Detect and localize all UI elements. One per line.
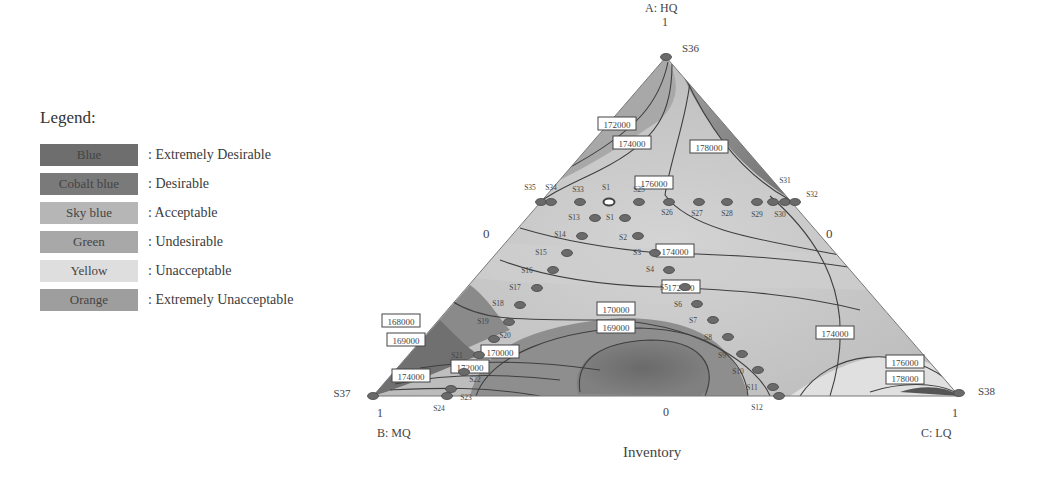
svg-text:S5: S5 (660, 283, 668, 292)
svg-text:174000: 174000 (398, 372, 426, 382)
svg-text:170000: 170000 (603, 305, 631, 315)
svg-text:S26: S26 (661, 208, 673, 217)
svg-text:S16: S16 (521, 266, 533, 275)
svg-text:169000: 169000 (603, 323, 631, 333)
svg-text:S18: S18 (492, 299, 504, 308)
bottom-axis-zero: 0 (663, 405, 669, 419)
svg-text:S2: S2 (619, 233, 627, 242)
contour-label: 176000 (886, 355, 924, 368)
axis-a-label: A: HQ (645, 1, 678, 15)
svg-text:S17: S17 (509, 283, 521, 292)
svg-text:S33: S33 (572, 185, 584, 194)
design-point: S27 (691, 199, 704, 219)
svg-text:S12: S12 (751, 403, 763, 412)
svg-text:S36: S36 (682, 42, 700, 54)
svg-text:S20: S20 (499, 331, 511, 340)
svg-text:169000: 169000 (393, 336, 421, 346)
svg-text:S21: S21 (451, 351, 463, 360)
svg-text:S34: S34 (545, 183, 557, 192)
svg-text:S35: S35 (524, 183, 536, 192)
svg-text:174000: 174000 (822, 329, 850, 339)
svg-text:S27: S27 (691, 209, 703, 218)
svg-text:S25: S25 (633, 185, 645, 194)
svg-text:S22: S22 (469, 375, 481, 384)
svg-text:S31: S31 (779, 176, 791, 185)
design-point: S37 (333, 387, 378, 400)
contour-label: 174000 (656, 244, 694, 257)
svg-text:168000: 168000 (388, 317, 416, 327)
svg-text:S9: S9 (718, 351, 726, 360)
svg-text:S38: S38 (978, 385, 996, 397)
svg-text:S30: S30 (774, 210, 786, 219)
contour-label: 172000 (598, 117, 636, 130)
svg-text:170000: 170000 (487, 348, 515, 358)
svg-text:172000: 172000 (604, 120, 632, 130)
design-point: S38 (954, 385, 996, 397)
axis-c-tick: 1 (952, 406, 958, 420)
svg-text:178000: 178000 (696, 143, 724, 153)
design-point: S36 (661, 42, 700, 61)
contour-label: 174000 (816, 326, 854, 339)
svg-text:S24: S24 (433, 404, 445, 413)
contour-label: 178000 (886, 371, 924, 384)
svg-text:S8: S8 (704, 333, 712, 342)
design-point: S35 (524, 183, 546, 206)
svg-text:176000: 176000 (892, 358, 920, 368)
contour-label: 169000 (597, 320, 635, 333)
svg-text:S4: S4 (646, 265, 654, 274)
right-axis-zero: 0 (826, 226, 833, 241)
svg-text:S6: S6 (674, 300, 682, 309)
design-point: S28 (721, 199, 733, 219)
svg-text:S32: S32 (806, 190, 818, 199)
svg-text:178000: 178000 (892, 374, 920, 384)
axis-a-tick: 1 (662, 15, 668, 29)
svg-text:S11: S11 (746, 383, 758, 392)
svg-text:S3: S3 (633, 248, 641, 257)
svg-text:174000: 174000 (619, 139, 647, 149)
svg-text:174000: 174000 (662, 247, 690, 257)
contour-label: 174000 (392, 369, 430, 382)
svg-text:S15: S15 (535, 248, 547, 257)
svg-text:S1: S1 (606, 213, 614, 222)
contour-label: 178000 (690, 140, 728, 153)
svg-text:S19: S19 (477, 317, 489, 326)
contour-label: 170000 (597, 302, 635, 315)
axis-b-tick: 1 (377, 406, 383, 420)
contour-label: 170000 (481, 345, 519, 358)
svg-text:S1: S1 (602, 183, 610, 192)
svg-text:S13: S13 (568, 213, 580, 222)
left-axis-zero: 0 (483, 226, 490, 241)
svg-text:S37: S37 (333, 387, 351, 399)
chart-title: Inventory (623, 444, 682, 460)
svg-text:S7: S7 (689, 316, 697, 325)
axis-c-label: C: LQ (921, 426, 952, 440)
svg-text:S10: S10 (732, 367, 744, 376)
contour-label: 174000 (613, 136, 651, 149)
design-point: S32 (790, 190, 819, 206)
svg-text:S28: S28 (721, 209, 733, 218)
contour-label: 168000 (382, 314, 420, 327)
axis-b-label: B: MQ (377, 426, 411, 440)
svg-text:S29: S29 (751, 210, 763, 219)
svg-text:S23: S23 (460, 393, 472, 402)
contour-label: 172000 (451, 360, 489, 373)
ternary-plot: 1720001740001780001760001740001720001700… (0, 0, 1037, 482)
svg-text:S14: S14 (554, 230, 566, 239)
contour-label: 169000 (387, 333, 425, 346)
